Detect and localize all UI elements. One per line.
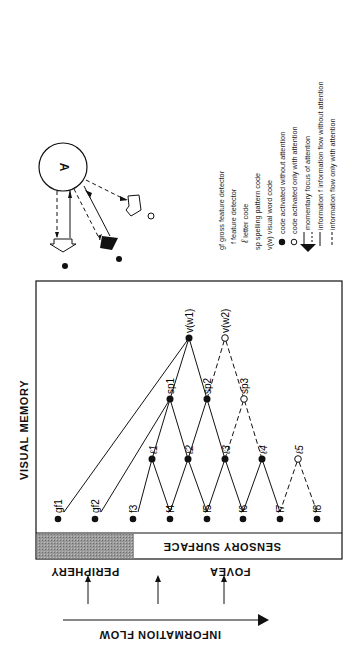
arrow-right-icon: [258, 614, 269, 626]
node-f3: [130, 516, 137, 523]
svg-text:gf2: gf2: [90, 499, 101, 513]
filled-node: [116, 256, 122, 262]
svg-text:ℓ4: ℓ4: [258, 445, 269, 455]
filled-node: [62, 263, 68, 269]
information-flow-label: INFORMATION FLOW: [99, 629, 221, 641]
node-f6: [240, 516, 247, 523]
legend: gf gross feature detector f feature dete…: [217, 82, 337, 252]
node-sp3: [241, 396, 248, 403]
hollow-node: [148, 213, 154, 219]
legend-hollow: code activated only with attention: [290, 127, 299, 235]
legend-f: f feature detector: [229, 188, 238, 244]
svg-text:ℓ3: ℓ3: [221, 445, 232, 455]
svg-text:f4: f4: [165, 504, 176, 513]
node-l2: [185, 456, 192, 463]
svg-text:ℓ1: ℓ1: [148, 445, 159, 455]
legend-solid: information f information flow without a…: [316, 82, 325, 230]
node-sp1: [167, 396, 174, 403]
node-l4: [259, 456, 266, 463]
node-f7: [277, 516, 284, 523]
node-sp2: [204, 396, 211, 403]
sensory-surface-label: SENSORY SURFACE: [163, 541, 281, 553]
svg-text:v(w1): v(w1): [184, 309, 195, 333]
node-f8: [314, 516, 321, 523]
node-gf2: [92, 516, 99, 523]
focus-arrow-icon: [300, 232, 316, 252]
node-gf1: [55, 516, 62, 523]
node-l5: [295, 456, 302, 463]
svg-text:sp2: sp2: [202, 377, 213, 394]
node-f4: [167, 516, 174, 523]
filled-circle-icon: [279, 239, 285, 245]
svg-text:ℓ5: ℓ5: [294, 445, 305, 455]
node-l3: [222, 456, 229, 463]
fovea-label: FOVEA: [210, 566, 251, 578]
svg-text:f3: f3: [128, 504, 139, 513]
legend-l: ℓ letter code: [239, 204, 250, 244]
reading-model-diagram: A gf gross feature detector f feature de…: [0, 0, 351, 654]
arrow-up-icon: [155, 575, 161, 582]
svg-text:v(w2): v(w2): [220, 309, 231, 333]
svg-text:f8: f8: [312, 504, 323, 513]
svg-text:f6: f6: [238, 504, 249, 513]
attention-label: A: [57, 163, 71, 172]
legend-focus: momentary focus of attention: [303, 136, 312, 230]
node-vw2: [222, 335, 229, 342]
hollow-circle-icon: [291, 239, 297, 245]
hollow-attention-arrow: [50, 239, 76, 252]
input-arrows: [88, 580, 224, 604]
periphery-shading: [37, 534, 134, 559]
svg-text:ℓ2: ℓ2: [184, 445, 195, 455]
svg-text:sp3: sp3: [239, 377, 250, 394]
svg-text:gf1: gf1: [53, 499, 64, 513]
node-vw1: [186, 335, 193, 342]
legend-filled: code activated without attention: [278, 132, 287, 234]
node-l1: [149, 456, 156, 463]
legend-sp: sp spelling pattern code: [253, 173, 262, 250]
legend-vw: v(w) visual word code: [265, 180, 274, 250]
attention-system: A: [39, 143, 154, 269]
periphery-label: PERIPHERY: [51, 566, 120, 578]
svg-text:sp1: sp1: [165, 377, 176, 394]
black-attention-arrow: [100, 236, 118, 250]
legend-gf: gf gross feature detector: [217, 170, 226, 250]
node-f5: [204, 516, 211, 523]
svg-text:f7: f7: [275, 504, 286, 513]
hollow-attention-arrow: [126, 195, 141, 216]
svg-text:f5: f5: [202, 504, 213, 513]
legend-dashed: information flow only with attention: [328, 118, 337, 230]
page-title: VISUAL MEMORY: [18, 380, 30, 480]
